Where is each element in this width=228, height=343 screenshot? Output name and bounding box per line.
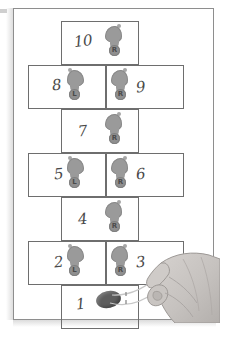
hopscotch-square-10[interactable] bbox=[61, 21, 139, 65]
footprint-label-4: R bbox=[109, 221, 120, 232]
footprint-right-4: R bbox=[104, 202, 123, 232]
square-number-4: 4 bbox=[77, 212, 88, 228]
square-number-7: 7 bbox=[77, 124, 88, 140]
square-number-6: 6 bbox=[135, 167, 146, 183]
footprint-right-10: R bbox=[104, 26, 123, 56]
footprint-label-10: R bbox=[109, 45, 120, 56]
footprint-label-6: R bbox=[115, 177, 126, 188]
footprint-right-7: R bbox=[104, 114, 123, 144]
footprint-label-5: L bbox=[69, 177, 80, 188]
footprint-label-2: L bbox=[69, 265, 80, 276]
square-number-8: 8 bbox=[51, 78, 62, 94]
footprint-label-8: L bbox=[69, 89, 80, 100]
square-number-9: 9 bbox=[135, 80, 146, 96]
footprint-right-6: R bbox=[110, 158, 129, 188]
footprint-label-7: R bbox=[109, 133, 120, 144]
square-number-10: 10 bbox=[73, 33, 93, 50]
footprint-right-9: R bbox=[110, 70, 129, 100]
square-number-1: 1 bbox=[75, 297, 86, 313]
footprint-left-2: L bbox=[66, 246, 85, 276]
footprint-label-9: R bbox=[115, 89, 126, 100]
footprint-left-5: L bbox=[66, 158, 85, 188]
footprint-left-8: L bbox=[66, 70, 85, 100]
hopscotch-square-7[interactable] bbox=[61, 109, 139, 153]
square-number-5: 5 bbox=[53, 167, 64, 183]
hand-tossing-stone bbox=[135, 247, 220, 323]
hopscotch-square-4[interactable] bbox=[61, 197, 139, 241]
illustration-canvas: 10 R 8 L R 9 bbox=[0, 0, 228, 343]
square-number-2: 2 bbox=[53, 255, 64, 271]
footprint-right-3: R bbox=[110, 246, 129, 276]
footprint-label-3: R bbox=[115, 265, 126, 276]
